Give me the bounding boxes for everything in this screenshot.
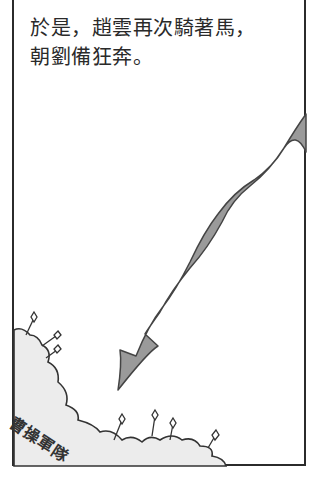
panel-artwork <box>0 0 319 477</box>
arrow-icon <box>118 114 306 390</box>
